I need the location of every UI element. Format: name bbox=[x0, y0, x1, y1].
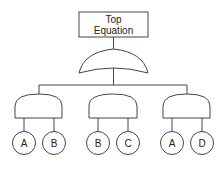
basic-event: B bbox=[87, 132, 110, 155]
and-gate-icon bbox=[15, 94, 62, 118]
event-label: B bbox=[51, 138, 58, 149]
event-label: A bbox=[169, 138, 176, 149]
event-label: C bbox=[124, 138, 131, 149]
event-label: B bbox=[95, 138, 102, 149]
basic-event: D bbox=[191, 132, 214, 155]
fault-tree-diagram: Top Equation A B B C A D bbox=[0, 0, 223, 169]
and-gate-icon bbox=[89, 94, 137, 118]
and-gate-icon bbox=[163, 94, 210, 118]
basic-event: A bbox=[161, 132, 184, 155]
top-event: Top Equation bbox=[79, 12, 148, 37]
top-event-label-line2: Equation bbox=[94, 25, 133, 36]
basic-event: C bbox=[117, 132, 140, 155]
event-label: D bbox=[198, 138, 205, 149]
basic-event: A bbox=[13, 132, 36, 155]
event-label: A bbox=[21, 138, 28, 149]
basic-event: B bbox=[43, 132, 66, 155]
top-event-label-line1: Top bbox=[105, 14, 122, 25]
